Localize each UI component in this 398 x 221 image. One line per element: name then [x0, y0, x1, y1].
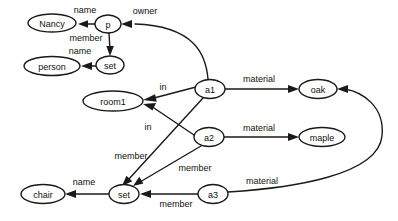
edge-label-a1-room1: in: [159, 82, 166, 92]
edge-label-a1-oak: material: [243, 74, 275, 84]
node-p[interactable]: p: [95, 15, 121, 33]
arrow-head-icon: [143, 103, 156, 111]
node-maple[interactable]: maple: [299, 128, 345, 147]
node-set-bottom[interactable]: set: [109, 185, 139, 204]
edge-p-nancy: [78, 20, 95, 28]
edge-label-set-person: name: [69, 46, 92, 56]
node-a1[interactable]: a1: [195, 80, 225, 99]
node-person[interactable]: person: [24, 57, 80, 76]
node-a3[interactable]: a3: [198, 185, 228, 204]
edge-label-p-nancy: name: [74, 5, 97, 15]
node-nancy[interactable]: Nancy: [28, 14, 76, 32]
edge-label-a2-setbot: member: [178, 163, 211, 173]
edge-setbot-chair: [65, 190, 109, 198]
arrow-head-icon: [288, 85, 299, 93]
node-label: set: [118, 190, 131, 200]
arrow-head-icon: [121, 20, 132, 28]
edge-label-p-set: member: [69, 33, 102, 43]
edge-a2-maple: [224, 133, 299, 141]
arrow-head-icon: [337, 85, 348, 93]
node-label: maple: [310, 133, 335, 143]
edge-path: [135, 24, 208, 79]
node-label: room1: [100, 97, 126, 107]
arrow-head-icon: [140, 190, 151, 198]
node-room1[interactable]: room1: [83, 91, 143, 111]
edge-a1-p: [121, 20, 208, 79]
arrow-head-icon: [81, 62, 92, 70]
edge-label-a1-setbot: member: [114, 151, 147, 161]
edge-label-a3-setbot: member: [159, 199, 192, 209]
node-set-top[interactable]: set: [96, 56, 124, 74]
arrow-head-icon: [106, 46, 114, 56]
edge-label-a3-oak: material: [246, 176, 278, 186]
arrow-head-icon: [143, 94, 157, 102]
node-label: chair: [33, 190, 53, 200]
arrow-head-icon: [78, 20, 88, 28]
edge-a1-room1: [143, 87, 196, 102]
node-label: set: [104, 61, 117, 71]
node-oak[interactable]: oak: [299, 80, 337, 99]
node-label: Nancy: [39, 19, 65, 29]
edge-label-a2-maple: material: [243, 123, 275, 133]
edge-p-settop: [106, 33, 114, 56]
node-label: p: [105, 20, 110, 30]
node-a2[interactable]: a2: [194, 128, 224, 147]
semantic-network-diagram: Nancy p set person room1 a1: [0, 0, 398, 221]
graph-canvas: Nancy p set person room1 a1: [0, 0, 398, 221]
edge-label-a1-p: owner: [133, 6, 158, 16]
edge-label-a2-room1: in: [144, 122, 151, 132]
edge-settop-person: [81, 62, 96, 70]
arrow-head-icon: [288, 133, 299, 141]
node-label: person: [38, 62, 66, 72]
edge-a1-oak: [225, 85, 299, 93]
node-label: a1: [205, 85, 215, 95]
edge-a3-setbot: [140, 190, 198, 198]
node-label: a2: [204, 133, 214, 143]
arrow-head-icon: [133, 177, 143, 186]
edge-label-setbot-chair: name: [73, 177, 96, 187]
edge-path: [154, 108, 194, 135]
node-label: a3: [208, 190, 218, 200]
node-label: oak: [311, 85, 326, 95]
node-chair[interactable]: chair: [21, 185, 65, 204]
arrow-head-icon: [65, 190, 76, 198]
